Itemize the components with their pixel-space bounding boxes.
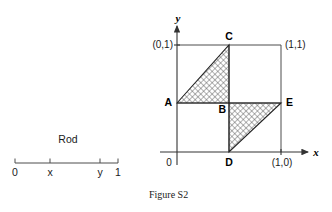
figure-caption: Figure S2 xyxy=(149,189,188,200)
rod-title: Rod xyxy=(58,133,77,145)
origin-label: 0 xyxy=(166,157,172,168)
figure-canvas: Rod 0 x y 1 x y xyxy=(0,0,332,212)
point-label-B: B xyxy=(218,103,226,115)
point-label-D: D xyxy=(225,156,233,168)
rod-tick-label-y: y xyxy=(97,166,103,178)
plot-panel: x y 0 (0,1) (1,1) (1,0) A B C D E xyxy=(152,12,319,168)
rod-panel: Rod 0 x y 1 xyxy=(12,133,121,178)
point-label-A: A xyxy=(164,96,172,108)
rod-tick-label-1: 1 xyxy=(115,166,121,178)
x-axis-label: x xyxy=(312,146,319,158)
rod-tick-label-x: x xyxy=(47,166,53,178)
y-axis-label: y xyxy=(174,12,181,24)
point-label-C: C xyxy=(225,30,233,42)
corner-label-bottom-right: (1,0) xyxy=(272,157,293,168)
point-label-E: E xyxy=(286,96,293,108)
rod-tick-label-0: 0 xyxy=(12,166,18,178)
figure-s2: Rod 0 x y 1 x y xyxy=(0,0,332,212)
corner-label-top-right: (1,1) xyxy=(285,39,306,50)
corner-label-top-left: (0,1) xyxy=(152,39,173,50)
